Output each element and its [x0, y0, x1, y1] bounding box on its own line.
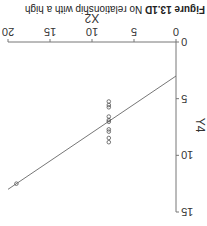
regression-line — [8, 76, 176, 189]
caption-label: Figure 13.1D — [145, 4, 205, 15]
x-tick-label: 0 — [173, 26, 179, 38]
scatter-chart: 05101520051015X2Y4 — [0, 0, 207, 226]
fit-line — [8, 76, 176, 189]
data-point — [107, 115, 111, 119]
y-axis-label: Y4 — [193, 118, 207, 133]
y-tick-label: 0 — [181, 36, 187, 48]
data-point — [107, 100, 111, 104]
rotated-figure: 05101520051015X2Y4 Figure 13.1D No relat… — [0, 0, 207, 226]
axes: 05101520051015X2Y4 — [2, 11, 207, 218]
y-tick-label: 10 — [181, 149, 193, 161]
x-tick-label: 5 — [131, 26, 137, 38]
figure-caption: Figure 13.1D No relationship with a high — [0, 1, 205, 15]
x-tick-label: 10 — [86, 26, 98, 38]
caption-text: No relationship with a high — [25, 4, 145, 15]
x-tick-label: 15 — [44, 26, 56, 38]
data-point — [107, 105, 111, 109]
y-tick-label: 15 — [181, 206, 193, 218]
x-tick-label: 20 — [2, 26, 14, 38]
data-point — [107, 136, 111, 140]
data-point — [107, 130, 111, 134]
y-tick-label: 5 — [181, 93, 187, 105]
data-points — [15, 100, 111, 186]
data-point — [107, 140, 111, 144]
